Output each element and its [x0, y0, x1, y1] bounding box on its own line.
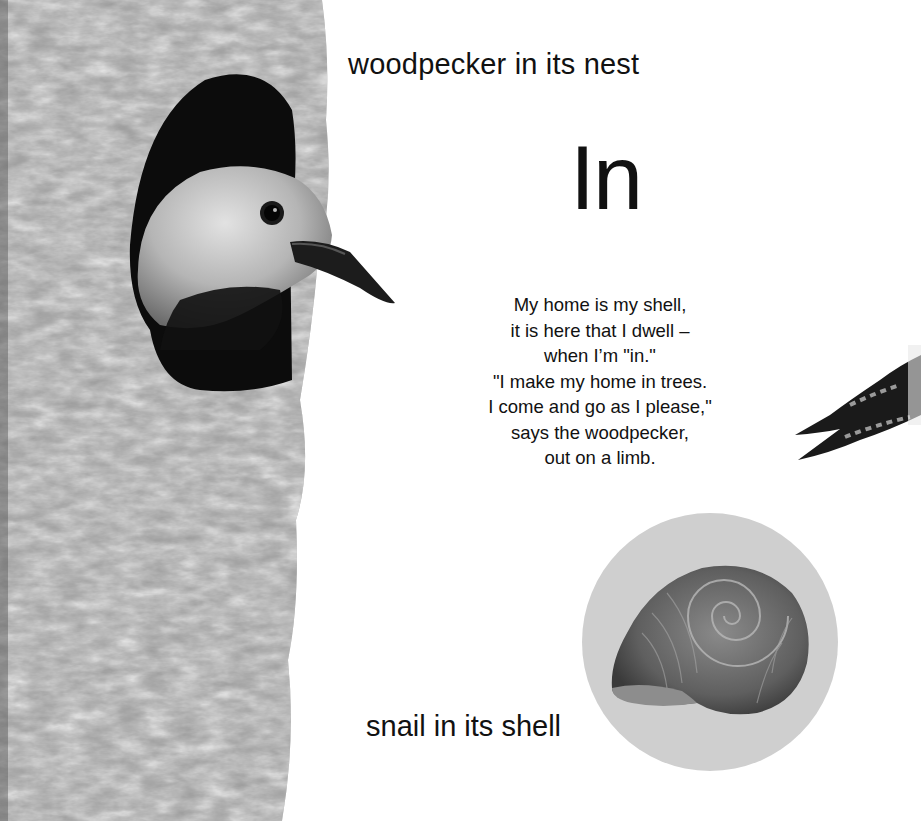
- poem-line: My home is my shell,: [440, 292, 760, 318]
- tree-trunk-photo: [0, 0, 335, 821]
- poem-line: "I make my home in trees.: [440, 369, 760, 395]
- snail-caption: snail in its shell: [366, 710, 561, 743]
- snail-shell-photo: [582, 513, 838, 771]
- woodpecker-caption: woodpecker in its nest: [348, 48, 639, 81]
- poem-text: My home is my shell, it is here that I d…: [440, 292, 760, 471]
- woodpecker-photo: [120, 150, 410, 350]
- tree-bark-icon: [0, 0, 335, 821]
- poem-line: it is here that I dwell –: [440, 318, 760, 344]
- poem-line: I come and go as I please,": [440, 394, 760, 420]
- woodpecker-icon: [120, 150, 410, 350]
- partial-beak-photo: [790, 345, 921, 470]
- beak-icon: [790, 345, 921, 470]
- snail-shell-icon: [582, 513, 838, 771]
- poem-line: out on a limb.: [440, 445, 760, 471]
- page-heading: In: [570, 133, 641, 223]
- poem-line: when I’m "in.": [440, 343, 760, 369]
- poem-line: says the woodpecker,: [440, 420, 760, 446]
